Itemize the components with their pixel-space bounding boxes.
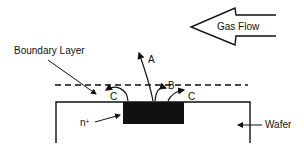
gas-flow-label: Gas Flow <box>217 22 259 32</box>
diagram-canvas: Gas Flow Boundary Layer A B C C n+ Wafer <box>0 0 304 150</box>
path-b-arrow <box>155 88 166 101</box>
n-plus-region <box>123 102 184 124</box>
wafer-label: Wafer <box>265 120 291 130</box>
n-plus-superscript: + <box>86 118 90 125</box>
path-c-right-label: C <box>188 92 195 102</box>
n-plus-pointer <box>95 115 120 122</box>
path-a-label: A <box>148 55 155 65</box>
boundary-layer-label: Boundary Layer <box>14 46 85 56</box>
boundary-layer-pointer <box>48 60 96 94</box>
path-b-label: B <box>168 81 175 91</box>
n-plus-label: n+ <box>80 118 90 128</box>
path-c-left-label: C <box>110 92 117 102</box>
path-c-right-arrow <box>168 90 184 101</box>
